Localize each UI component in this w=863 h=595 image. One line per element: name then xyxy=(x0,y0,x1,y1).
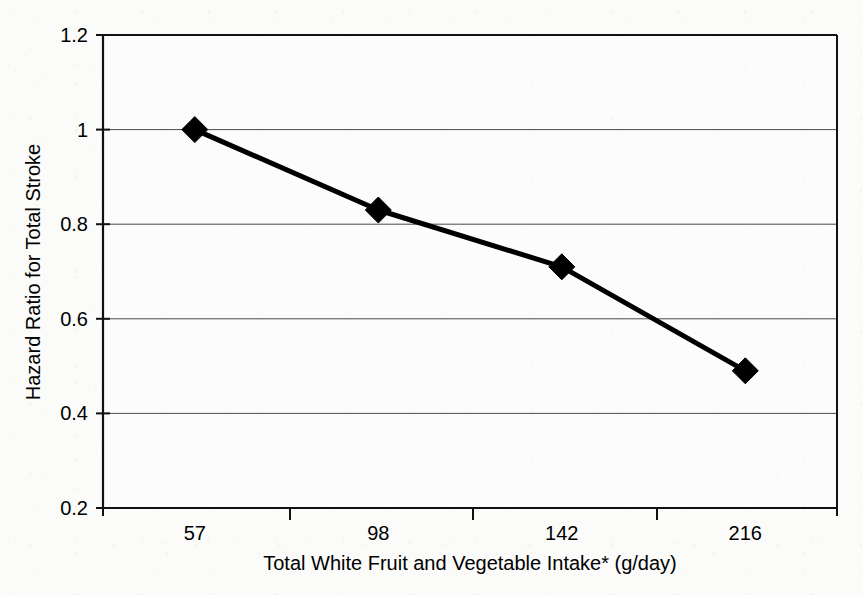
y-tick-label-3: 0.8 xyxy=(60,213,88,235)
plot-background xyxy=(103,35,837,508)
y-tick-label-5: 1.2 xyxy=(60,24,88,46)
y-axis-title: Hazard Ratio for Total Stroke xyxy=(22,144,44,400)
x-tick-label-1: 98 xyxy=(367,522,389,544)
y-axis-tick-labels: 1.2 1 0.8 0.6 0.4 0.2 xyxy=(60,24,88,519)
y-tick-label-4: 1 xyxy=(77,119,88,141)
x-tick-label-2: 142 xyxy=(545,522,578,544)
y-tick-label-0: 0.2 xyxy=(60,497,88,519)
x-tick-label-0: 57 xyxy=(184,522,206,544)
chart-page: 1.2 1 0.8 0.6 0.4 0.2 57 98 142 216 Tota… xyxy=(0,0,863,595)
x-tick-label-3: 216 xyxy=(729,522,762,544)
x-axis-tick-labels: 57 98 142 216 xyxy=(184,522,762,544)
x-axis-title: Total White Fruit and Vegetable Intake* … xyxy=(263,552,677,574)
hazard-ratio-line-chart: 1.2 1 0.8 0.6 0.4 0.2 57 98 142 216 Tota… xyxy=(0,0,863,595)
y-tick-label-1: 0.4 xyxy=(60,402,88,424)
y-tick-label-2: 0.6 xyxy=(60,308,88,330)
